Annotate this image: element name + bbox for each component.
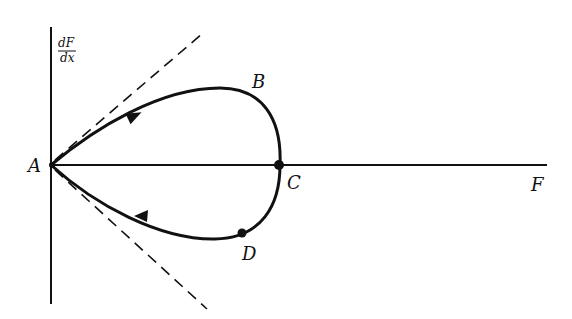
- point-a-dot: [49, 162, 55, 168]
- lower-trajectory: [51, 165, 280, 239]
- point-d-dot: [238, 229, 247, 238]
- upper-trajectory: [51, 88, 280, 165]
- label-a: A: [26, 155, 41, 176]
- x-axis-label: F: [530, 174, 545, 195]
- point-c-dot: [274, 160, 284, 170]
- upper-arrow-icon: [126, 112, 143, 124]
- label-c: C: [287, 172, 301, 193]
- phase-diagram: dF dx A B C D F: [0, 0, 572, 319]
- label-d: D: [241, 243, 257, 264]
- label-b: B: [251, 71, 265, 92]
- upper-dashed-tangent: [55, 33, 203, 160]
- lower-dashed-tangent: [55, 170, 207, 309]
- y-axis-label-numerator: dF: [58, 36, 75, 50]
- y-axis-label-denominator: dx: [60, 51, 75, 65]
